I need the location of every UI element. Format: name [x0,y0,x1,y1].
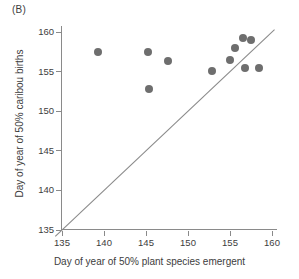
scatter-point [164,57,172,65]
scatter-point [144,48,152,56]
scatter-point [94,48,102,56]
x-axis-title: Day of year of 50% plant species emergen… [0,256,299,267]
scatter-point [226,56,234,64]
figure-panel-b: (B) 135140145150155160 13514014515015516… [0,0,299,279]
y-axis-title: Day of year of 50% caribou births [14,19,25,229]
scatter-point [145,85,153,93]
scatter-point [247,36,255,44]
scatter-point [231,44,239,52]
